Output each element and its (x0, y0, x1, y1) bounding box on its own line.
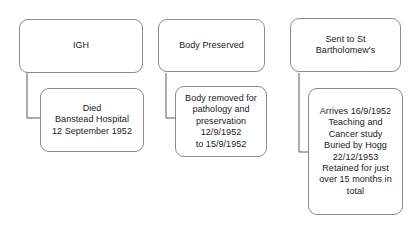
node-body-preserved-label: Body Preserved (176, 40, 247, 51)
node-body-removed[interactable]: Body removed for pathology and preservat… (175, 86, 267, 157)
node-body-removed-label: Body removed for pathology and preservat… (182, 93, 260, 150)
node-died[interactable]: Died Banstead Hospital 12 September 1952 (40, 88, 144, 152)
node-igh[interactable]: IGH (19, 19, 143, 73)
connector-igh-to-died (27, 73, 41, 118)
node-sent-to-st-barts[interactable]: Sent to St Bartholomew's (290, 18, 401, 72)
node-died-label: Died Banstead Hospital 12 September 1952 (49, 103, 135, 137)
node-igh-label: IGH (70, 40, 92, 51)
node-arrives-label: Arrives 16/9/1952 Teaching and Cancer st… (316, 106, 394, 197)
node-sent-to-st-barts-label: Sent to St Bartholomew's (313, 34, 378, 57)
flowchart-diagram: IGH Died Banstead Hospital 12 September … (0, 0, 420, 226)
node-arrives[interactable]: Arrives 16/9/1952 Teaching and Cancer st… (308, 88, 403, 215)
node-body-preserved[interactable]: Body Preserved (158, 19, 265, 72)
